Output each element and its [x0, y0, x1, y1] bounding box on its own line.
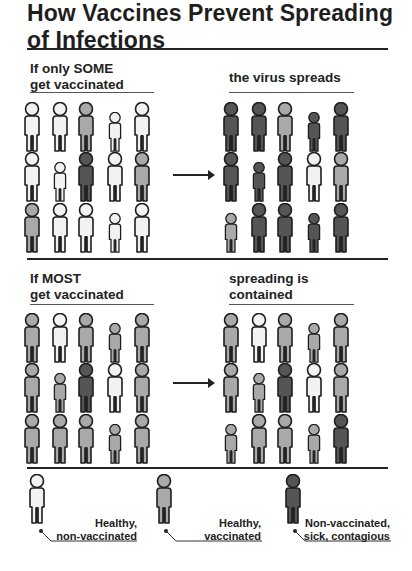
- person-icon-healthy-vaccinated: [22, 414, 42, 468]
- person-icon-healthy-nonvaccinated: [304, 152, 324, 206]
- person-icon-healthy-vaccinated: [22, 203, 42, 257]
- label-line: If MOST: [30, 271, 124, 287]
- person-icon-sick-contagious: [249, 102, 269, 156]
- legend-leader-line: [163, 528, 263, 544]
- person-icon-healthy-nonvaccinated: [76, 203, 96, 257]
- label-line: get vaccinated: [30, 77, 124, 93]
- person-icon-sick-contagious: [76, 152, 96, 206]
- person-icon-healthy-vaccinated: [50, 414, 70, 468]
- person-icon-healthy-nonvaccinated: [249, 313, 269, 367]
- label-line: contained: [229, 287, 309, 303]
- label-some-vaccinated: If only SOME get vaccinated: [30, 61, 124, 93]
- person-icon-healthy-vaccinated: [22, 313, 42, 367]
- person-icon-sick-contagious: [221, 102, 241, 156]
- page-title: How Vaccines Prevent Spreading of Infect…: [27, 0, 393, 54]
- label-line: get vaccinated: [30, 287, 124, 303]
- person-icon-healthy-vaccinated: [221, 363, 241, 417]
- person-icon-healthy-vaccinated: [22, 363, 42, 417]
- person-icon-healthy-nonvaccinated: [105, 363, 125, 417]
- person-icon-healthy-vaccinated: [275, 102, 295, 156]
- person-icon-healthy-vaccinated: [331, 152, 351, 206]
- underline-some-right: [229, 92, 354, 93]
- person-icon-healthy-nonvaccinated: [50, 203, 70, 257]
- person-icon-sick-contagious: [249, 203, 269, 257]
- person-icon-healthy-vaccinated: [331, 363, 351, 417]
- person-icon-healthy-vaccinated: [223, 213, 239, 257]
- person-icon-sick-contagious: [275, 152, 295, 206]
- legend-leader-line: [38, 528, 138, 544]
- person-icon-healthy-vaccinated: [275, 414, 295, 468]
- person-icon-healthy-vaccinated: [107, 424, 123, 468]
- person-icon-healthy-nonvaccinated: [22, 102, 42, 156]
- arrow-right-icon: [173, 174, 213, 176]
- person-icon-healthy-vaccinated: [306, 323, 322, 367]
- person-icon-healthy-vaccinated: [132, 414, 152, 468]
- legend-leader-line: [292, 528, 392, 544]
- person-icon-sick-contagious: [221, 152, 241, 206]
- label-line: If only SOME: [30, 61, 124, 77]
- person-icon-healthy-vaccinated: [132, 313, 152, 367]
- arrow-right-icon: [173, 382, 213, 384]
- person-icon-healthy-vaccinated: [306, 424, 322, 468]
- underline-most-right: [229, 304, 354, 305]
- person-icon-sick-contagious: [331, 414, 351, 468]
- label-virus-spreads: the virus spreads: [229, 70, 341, 86]
- person-icon-healthy-nonvaccinated: [50, 313, 70, 367]
- underline-some-left: [30, 92, 154, 93]
- legend-figure-sick-contagious: [283, 474, 303, 528]
- person-icon-healthy-vaccinated: [76, 414, 96, 468]
- person-icon-sick-contagious: [306, 112, 322, 156]
- divider-bottom: [27, 467, 388, 469]
- person-icon-healthy-vaccinated: [249, 414, 269, 468]
- divider-top: [27, 48, 388, 50]
- person-icon-healthy-nonvaccinated: [52, 162, 68, 206]
- person-icon-healthy-vaccinated: [52, 373, 68, 417]
- label-spreading-contained: spreading is contained: [229, 271, 309, 303]
- person-icon-healthy-vaccinated: [223, 424, 239, 468]
- person-icon-healthy-nonvaccinated: [132, 203, 152, 257]
- label-most-vaccinated: If MOST get vaccinated: [30, 271, 124, 303]
- person-icon-healthy-vaccinated: [132, 152, 152, 206]
- person-icon-sick-contagious: [331, 102, 351, 156]
- person-icon-sick-contagious: [275, 363, 295, 417]
- person-icon-healthy-nonvaccinated: [105, 152, 125, 206]
- person-icon-healthy-vaccinated: [107, 323, 123, 367]
- person-icon-healthy-nonvaccinated: [22, 152, 42, 206]
- person-icon-healthy-vaccinated: [76, 313, 96, 367]
- underline-most-left: [30, 304, 154, 305]
- person-icon-sick-contagious: [251, 162, 267, 206]
- person-icon-sick-contagious: [306, 213, 322, 257]
- person-icon-healthy-vaccinated: [132, 363, 152, 417]
- person-icon-healthy-vaccinated: [251, 373, 267, 417]
- divider-middle: [27, 258, 388, 260]
- person-icon-healthy-nonvaccinated: [50, 102, 70, 156]
- person-icon-sick-contagious: [275, 203, 295, 257]
- person-icon-healthy-vaccinated: [331, 313, 351, 367]
- person-icon-healthy-nonvaccinated: [132, 102, 152, 156]
- title-line-1: How Vaccines Prevent Spreading: [27, 0, 393, 27]
- legend-figure-healthy-nonvaccinated: [27, 474, 47, 528]
- person-icon-healthy-nonvaccinated: [107, 213, 123, 257]
- person-icon-healthy-vaccinated: [275, 313, 295, 367]
- person-icon-healthy-nonvaccinated: [107, 112, 123, 156]
- person-icon-healthy-vaccinated: [76, 102, 96, 156]
- person-icon-sick-contagious: [331, 203, 351, 257]
- person-icon-healthy-vaccinated: [221, 313, 241, 367]
- legend-figure-healthy-vaccinated: [154, 474, 174, 528]
- person-icon-healthy-nonvaccinated: [304, 363, 324, 417]
- person-icon-sick-contagious: [76, 363, 96, 417]
- label-line: spreading is: [229, 271, 309, 287]
